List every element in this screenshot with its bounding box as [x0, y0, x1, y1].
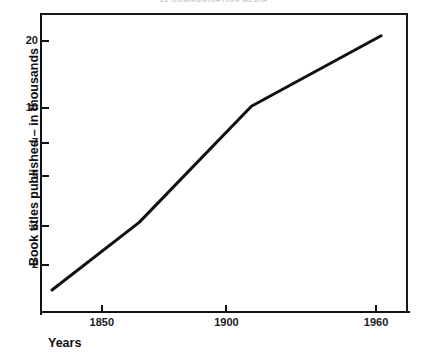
x-axis-title: Years [48, 336, 81, 350]
x-tick-label-1960: 1960 [346, 316, 406, 328]
plot-frame [40, 13, 408, 313]
y-axis-title-wrap: Book titles published – in thousands [0, 0, 30, 359]
x-tick-label-1850: 1850 [72, 316, 132, 328]
x-tick-1960 [375, 305, 377, 313]
y-tick-7 [42, 142, 49, 144]
x-tick-1850 [101, 305, 103, 313]
x-tick-1900 [225, 305, 227, 313]
y-tick-20 [42, 40, 49, 42]
y-tick-3 [42, 225, 49, 227]
y-tick-5 [42, 175, 49, 177]
chart-page: 22 COMMUNICATION MEDIA 23571020 18501900… [0, 0, 428, 359]
x-tick-label-1900: 1900 [196, 316, 256, 328]
running-head: 22 COMMUNICATION MEDIA [0, 0, 428, 3]
y-tick-10 [42, 107, 49, 109]
y-axis-title: Book titles published – in thousands [27, 37, 41, 277]
y-tick-2 [42, 264, 49, 266]
